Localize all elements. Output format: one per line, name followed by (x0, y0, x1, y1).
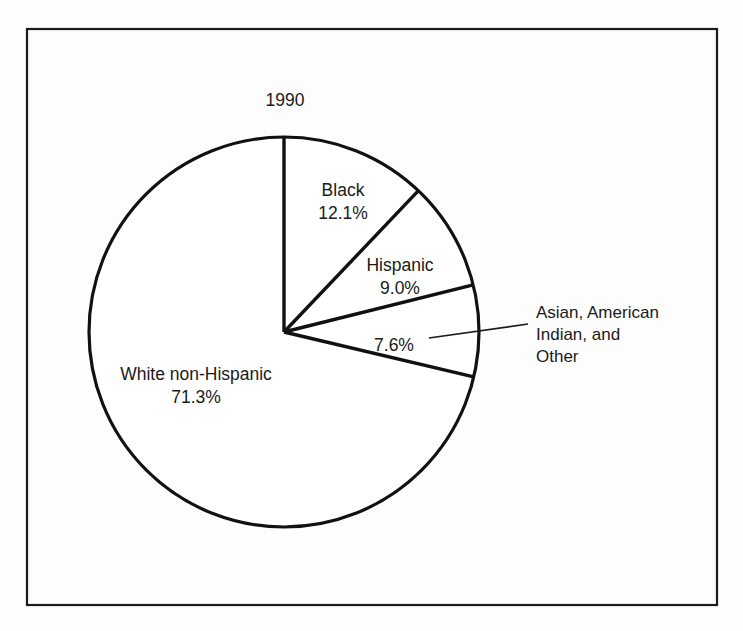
slice-label-hispanic-percent: 9.0% (380, 278, 420, 298)
slice-label-hispanic-name: Hispanic (366, 255, 433, 275)
slice-callout-other-line-3: Other (536, 347, 579, 366)
slice-label-white-name: White non-Hispanic (120, 364, 272, 384)
pie-chart-figure: 1990 Black 12.1% Hispanic 9.0% 7.6% Asia… (0, 0, 743, 631)
slice-callout-other-line-2: Indian, and (536, 325, 620, 344)
chart-title: 1990 (266, 90, 305, 110)
slice-label-white-percent: 71.3% (171, 387, 221, 407)
slice-label-black-name: Black (322, 180, 365, 200)
slice-label-black-percent: 12.1% (318, 203, 368, 223)
slice-callout-other-line-1: Asian, American (536, 303, 659, 322)
slice-label-other-percent: 7.6% (374, 335, 414, 355)
figure-root: 1990 Black 12.1% Hispanic 9.0% 7.6% Asia… (0, 0, 743, 631)
